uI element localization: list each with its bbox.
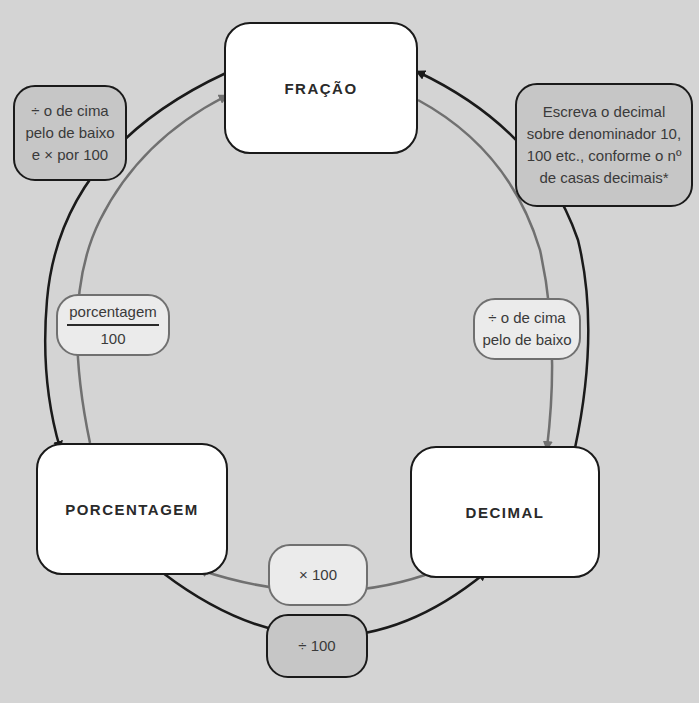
label-line: sobre denominador 10, (527, 123, 681, 145)
node-percentage-label: PORCENTAGEM (65, 501, 199, 518)
label-line: pelo de baixo (482, 329, 571, 351)
node-fraction: FRAÇÃO (224, 22, 418, 154)
label-percentage-to-decimal: ÷ 100 (266, 614, 368, 678)
label-line: ÷ o de cima (31, 100, 108, 122)
label-line: 100 etc., conforme o nº (527, 145, 682, 167)
label-fraction-to-percentage: ÷ o de cima pelo de baixo e × por 100 (13, 85, 127, 181)
node-decimal-label: DECIMAL (466, 504, 545, 521)
label-fraction-to-decimal: ÷ o de cima pelo de baixo (473, 298, 581, 360)
label-text: × 100 (299, 564, 337, 586)
label-line: Escreva o decimal (543, 101, 666, 123)
label-line: pelo de baixo (25, 122, 114, 144)
label-decimal-to-fraction: Escreva o decimal sobre denominador 10, … (515, 83, 693, 207)
node-decimal: DECIMAL (410, 446, 600, 578)
label-line: ÷ o de cima (488, 307, 565, 329)
label-line: e × por 100 (32, 144, 108, 166)
fraction-denominator: 100 (100, 326, 125, 350)
label-decimal-to-percentage: × 100 (268, 544, 368, 606)
label-text: ÷ 100 (298, 635, 335, 657)
node-percentage: PORCENTAGEM (36, 443, 228, 575)
label-percentage-to-fraction: porcentagem 100 (56, 294, 170, 356)
fraction-numerator: porcentagem (67, 301, 159, 326)
node-fraction-label: FRAÇÃO (284, 80, 357, 97)
label-line: de casas decimais* (539, 167, 668, 189)
